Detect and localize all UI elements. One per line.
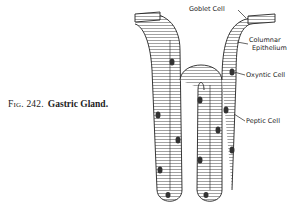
label-epithelium-line2: Epithelium xyxy=(249,45,287,53)
gland-tube-left xyxy=(135,13,182,201)
gland-arch xyxy=(180,65,222,201)
figure-caption: Fig. 242.Gastric Gland. xyxy=(8,99,108,109)
goblet-cell-leader xyxy=(238,10,246,18)
figure-title: Gastric Gland. xyxy=(48,99,108,109)
label-goblet-cell: Goblet Cell xyxy=(189,6,225,14)
figure-number: Fig. 242. xyxy=(8,99,44,109)
label-peptic-cell: Peptic Cell xyxy=(246,118,280,126)
label-oxyntic-cell: Oxyntic Cell xyxy=(246,72,285,80)
peptic-cell-leader xyxy=(234,114,245,121)
columnar-epithelium-leader xyxy=(237,42,248,44)
label-columnar-epithelium: Columnar Epithelium xyxy=(249,37,287,52)
